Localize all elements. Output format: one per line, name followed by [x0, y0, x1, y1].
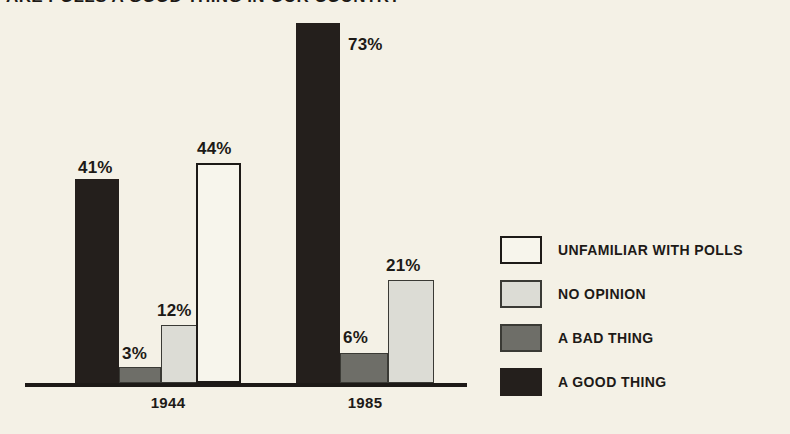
- bar-1944-unfamiliar-with-polls: [196, 163, 241, 383]
- bar-label-1985-no-opinion: 21%: [386, 256, 421, 276]
- bar-1985-no-opinion: [388, 280, 434, 383]
- legend-swatch-icon-a-good-thing: [500, 368, 542, 396]
- bar-1985-a-good-thing: [296, 23, 340, 383]
- bar-1944-a-good-thing: [75, 179, 119, 383]
- bar-1985-a-bad-thing: [340, 353, 388, 383]
- plot-area: 41% 3% 12% 44% 73% 6% 21% 1944 1985: [0, 0, 480, 434]
- chart-legend: UNFAMILIAR WITH POLLS NO OPINION A BAD T…: [500, 228, 785, 404]
- bar-label-1944-a-bad-thing: 3%: [122, 344, 147, 364]
- bar-label-1944-no-opinion: 12%: [157, 301, 192, 321]
- legend-swatch-icon-a-bad-thing: [500, 324, 542, 352]
- bar-label-1985-a-bad-thing: 6%: [343, 328, 368, 348]
- bar-label-1944-a-good-thing: 41%: [78, 158, 113, 178]
- x-axis-tick-1985: 1985: [315, 394, 415, 411]
- bar-label-1944-unfamiliar-with-polls: 44%: [197, 139, 232, 159]
- chart-canvas: ARE POLLS A GOOD THING IN OUR COUNTRY 41…: [0, 0, 790, 434]
- legend-item-no-opinion: NO OPINION: [500, 272, 785, 316]
- bar-label-1985-a-good-thing: 73%: [348, 35, 383, 55]
- legend-item-a-bad-thing: A BAD THING: [500, 316, 785, 360]
- bar-1944-a-bad-thing: [119, 367, 161, 383]
- legend-item-a-good-thing: A GOOD THING: [500, 360, 785, 404]
- legend-label-no-opinion: NO OPINION: [558, 286, 646, 302]
- x-axis-tick-1944: 1944: [118, 394, 218, 411]
- x-axis-line: [25, 383, 467, 387]
- legend-label-a-good-thing: A GOOD THING: [558, 374, 667, 390]
- legend-swatch-icon-unfamiliar-with-polls: [500, 236, 542, 264]
- bar-1944-no-opinion: [161, 325, 197, 383]
- legend-swatch-icon-no-opinion: [500, 280, 542, 308]
- legend-label-a-bad-thing: A BAD THING: [558, 330, 654, 346]
- legend-label-unfamiliar-with-polls: UNFAMILIAR WITH POLLS: [558, 242, 743, 258]
- legend-item-unfamiliar-with-polls: UNFAMILIAR WITH POLLS: [500, 228, 785, 272]
